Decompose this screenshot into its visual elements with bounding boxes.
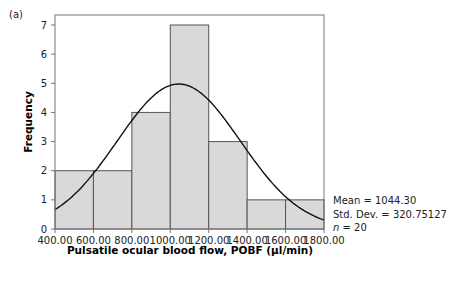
y-tick-label: 6 (41, 49, 47, 60)
histogram-bars (55, 25, 324, 229)
y-tick-label: 1 (41, 194, 47, 205)
n-value: = 20 (339, 222, 366, 233)
histogram-bar (209, 142, 247, 229)
histogram-bar (93, 171, 131, 229)
mean-stat: Mean = 1044.30 (333, 194, 447, 208)
histogram-chart: 01234567 400.00600.00800.001000.001200.0… (0, 0, 454, 281)
histogram-bar (132, 112, 170, 229)
y-axis-ticks: 01234567 (41, 20, 55, 235)
y-tick-label: 5 (41, 78, 47, 89)
std-dev-stat: Std. Dev. = 320.75127 (333, 208, 447, 222)
histogram-bar (247, 200, 285, 229)
stats-legend: Mean = 1044.30 Std. Dev. = 320.75127 n =… (333, 194, 447, 235)
panel-label: (a) (9, 9, 23, 20)
histogram-bar (170, 25, 208, 229)
y-tick-label: 4 (41, 107, 47, 118)
x-axis-label: Pulsatile ocular blood flow, POBF (µl/mi… (67, 244, 313, 256)
y-tick-label: 7 (41, 20, 47, 31)
y-tick-label: 3 (41, 136, 47, 147)
n-stat: n = 20 (333, 221, 447, 235)
y-axis-label: Frequency (22, 91, 34, 153)
y-tick-label: 0 (41, 224, 47, 235)
histogram-bar (286, 200, 324, 229)
y-tick-label: 2 (41, 165, 47, 176)
